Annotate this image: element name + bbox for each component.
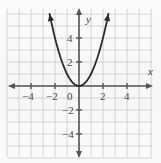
y-axis-tick-label: −2 [62, 105, 74, 116]
y-axis-tick-label: −4 [62, 129, 74, 140]
x-axis-tick-label: −4 [22, 91, 34, 102]
x-axis-tick-label: 4 [124, 91, 130, 102]
y-axis-arrow-up-icon [76, 8, 82, 15]
x-axis-arrow-right-icon [146, 83, 153, 89]
coordinate-plane-svg [0, 0, 161, 163]
y-axis-title: y [86, 14, 91, 25]
y-axis-tick-label: 2 [67, 57, 73, 68]
x-axis-tick-label: 2 [100, 91, 106, 102]
x-axis-arrow-left-icon [8, 83, 15, 89]
curve-arrow-right-icon [104, 14, 110, 22]
graph-figure: −4−22442−2−40 x y [0, 0, 161, 163]
x-axis-title: x [148, 66, 153, 77]
origin-label: 0 [67, 91, 73, 102]
y-axis-tick-label: 4 [67, 33, 73, 44]
y-axis-arrow-down-icon [76, 151, 82, 158]
x-axis-tick-label: −2 [46, 91, 58, 102]
curve-arrow-left-icon [48, 14, 54, 22]
axis-lines [8, 8, 153, 158]
